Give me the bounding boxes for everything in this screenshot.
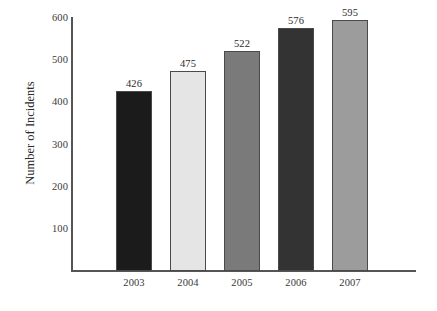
bar-value-label: 576 xyxy=(288,15,304,27)
bars-layer: 42620034752004522200557620065952007 xyxy=(0,0,437,311)
x-axis-tick-label: 2007 xyxy=(332,277,368,289)
bar-value-label: 522 xyxy=(234,38,250,50)
bar-value-label: 426 xyxy=(126,78,142,90)
bar-chart: Number of Incidents 600500400300200100 4… xyxy=(0,0,437,311)
x-axis-tick-label: 2004 xyxy=(170,277,206,289)
bar: 426 xyxy=(116,91,152,271)
bar-value-label: 475 xyxy=(180,58,196,70)
x-axis-tick-label: 2006 xyxy=(278,277,314,289)
bar: 595 xyxy=(332,20,368,271)
x-axis-tick-label: 2005 xyxy=(224,277,260,289)
x-axis-tick-label: 2003 xyxy=(116,277,152,289)
bar: 576 xyxy=(278,28,314,271)
bar: 475 xyxy=(170,71,206,271)
bar: 522 xyxy=(224,51,260,271)
bar-value-label: 595 xyxy=(342,7,358,19)
